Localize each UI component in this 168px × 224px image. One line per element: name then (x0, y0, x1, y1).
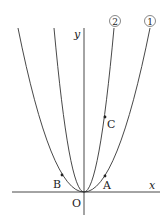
point-a-label: A (102, 179, 112, 192)
curve-2-label: 2 (110, 16, 121, 27)
point-c-dot (104, 116, 107, 119)
svg-text:2: 2 (112, 17, 118, 27)
origin-label: O (72, 197, 81, 210)
point-a-dot (104, 175, 107, 178)
point-c-label: C (107, 118, 115, 131)
y-axis-label: y (73, 28, 81, 41)
x-axis-label: x (149, 179, 156, 192)
svg-text:1: 1 (147, 17, 153, 27)
parabola-diagram: 2 1 y x O A B C (0, 0, 168, 224)
point-b-dot (61, 174, 64, 177)
curve-1-label: 1 (145, 16, 156, 27)
point-b-label: B (53, 178, 61, 191)
